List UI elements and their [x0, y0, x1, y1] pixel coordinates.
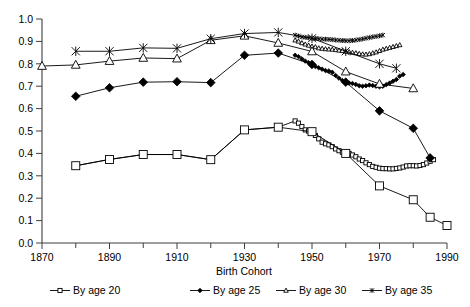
- data-point-open-square: [426, 213, 434, 221]
- y-tick-label: 0.9: [18, 35, 33, 47]
- series-layer: [38, 28, 451, 230]
- chart-container: 0.00.10.20.30.40.50.60.70.80.91.0 187018…: [0, 0, 470, 307]
- data-point-open-triangle: [173, 54, 182, 62]
- y-tick-label: 0.4: [18, 147, 33, 159]
- y-tick-label: 0.8: [18, 58, 33, 70]
- x-axis-ticks: 1870189019101930195019701990: [30, 243, 459, 263]
- data-point-open-square: [308, 128, 316, 136]
- data-point-open-square: [207, 156, 215, 164]
- series-by-age-30-decadal: [38, 31, 418, 92]
- data-point-open-square: [409, 196, 417, 204]
- legend-label: By age 25: [213, 284, 260, 296]
- series-by-age-25-decadal: [71, 49, 434, 162]
- series-line: [76, 121, 434, 169]
- x-tick-label: 1870: [30, 251, 54, 263]
- legend-marker-filled-diamond: [198, 288, 202, 292]
- legend-marker-open-square: [58, 288, 62, 292]
- data-point-filled-diamond: [139, 78, 148, 87]
- series-by-age-20: [74, 119, 436, 171]
- y-tick-label: 0.5: [18, 125, 33, 137]
- data-point-open-square: [274, 123, 282, 131]
- data-point-open-triangle: [300, 41, 305, 45]
- data-point-filled-diamond: [105, 83, 114, 92]
- data-point-open-triangle: [341, 67, 350, 75]
- data-point-open-triangle: [38, 61, 47, 69]
- data-point-open-triangle: [139, 53, 148, 61]
- data-point-open-square: [173, 151, 181, 159]
- series-line: [42, 36, 413, 89]
- legend-item-by-age-35[interactable]: By age 35: [362, 284, 432, 296]
- x-tick-label: 1990: [435, 251, 459, 263]
- series-by-age-35: [293, 33, 385, 44]
- data-point-open-square: [376, 182, 384, 190]
- data-point-filled-diamond: [173, 77, 182, 86]
- series-line: [76, 53, 430, 158]
- y-tick-label: 1.0: [18, 13, 33, 25]
- legend-label: By age 30: [299, 284, 346, 296]
- series-line: [76, 127, 447, 225]
- data-point-filled-diamond: [409, 124, 418, 133]
- data-point-filled-diamond: [274, 49, 283, 58]
- data-point-x-star: [392, 64, 400, 73]
- data-point-open-square: [139, 151, 147, 159]
- x-axis-title: Birth Cohort: [216, 265, 272, 277]
- data-point-open-square: [106, 155, 114, 163]
- legend-item-by-age-30[interactable]: By age 30: [276, 284, 346, 296]
- data-point-filled-diamond: [71, 92, 80, 101]
- x-tick-label: 1950: [300, 251, 324, 263]
- data-point-x-star: [375, 59, 383, 68]
- y-tick-label: 0.6: [18, 102, 33, 114]
- series-by-age-25: [293, 53, 405, 89]
- series-by-age-35-decadal: [72, 28, 401, 73]
- series-by-age-20-decadal: [72, 123, 451, 229]
- data-point-open-triangle: [296, 39, 301, 43]
- legend-item-by-age-20[interactable]: By age 20: [50, 284, 120, 296]
- data-point-open-square: [72, 162, 80, 170]
- data-point-open-triangle: [397, 43, 402, 47]
- x-tick-label: 1970: [368, 251, 392, 263]
- data-point-open-square: [342, 149, 350, 157]
- y-tick-label: 0.1: [18, 214, 33, 226]
- line-chart: 0.00.10.20.30.40.50.60.70.80.91.0 187018…: [0, 0, 470, 307]
- legend-marker-open-triangle: [284, 288, 289, 292]
- chart-legend: By age 20By age 25By age 30By age 35: [50, 284, 432, 296]
- legend-item-by-age-25[interactable]: By age 25: [190, 284, 260, 296]
- data-point-open-square: [443, 222, 451, 230]
- legend-label: By age 35: [385, 284, 432, 296]
- y-tick-label: 0.7: [18, 80, 33, 92]
- data-point-open-square: [241, 126, 249, 134]
- y-tick-label: 0.0: [18, 237, 33, 249]
- x-tick-label: 1930: [233, 251, 257, 263]
- y-tick-label: 0.2: [18, 192, 33, 204]
- legend-label: By age 20: [73, 284, 120, 296]
- y-axis-ticks: 0.00.10.20.30.40.50.60.70.80.91.0: [18, 13, 42, 249]
- y-tick-label: 0.3: [18, 170, 33, 182]
- x-tick-label: 1910: [165, 251, 189, 263]
- x-tick-label: 1890: [98, 251, 122, 263]
